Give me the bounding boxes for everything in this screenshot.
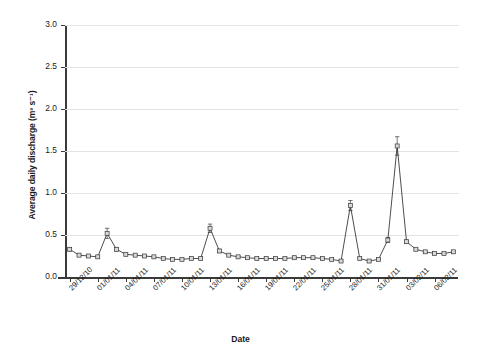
data-point-marker xyxy=(161,257,165,261)
x-axis-title: Date xyxy=(0,334,481,344)
data-point-marker xyxy=(367,259,371,263)
y-tick-label: 0.0 xyxy=(27,272,57,280)
data-point-marker xyxy=(255,257,259,261)
y-tick-label: 3.0 xyxy=(27,20,57,28)
y-tick-label: 2.0 xyxy=(27,104,57,112)
data-point-marker xyxy=(330,257,334,261)
data-point-marker xyxy=(171,257,175,261)
data-point-marker xyxy=(339,259,343,263)
data-point-marker xyxy=(68,247,72,251)
data-point-marker xyxy=(86,254,90,258)
data-point-marker xyxy=(423,250,427,254)
data-point-marker xyxy=(208,226,212,230)
data-point-marker xyxy=(264,257,268,261)
data-point-marker xyxy=(386,238,390,242)
data-point-marker xyxy=(236,255,240,259)
data-point-marker xyxy=(143,254,147,258)
data-point-marker xyxy=(302,256,306,260)
data-point-marker xyxy=(283,257,287,261)
data-point-marker xyxy=(189,257,193,261)
data-point-marker xyxy=(105,231,109,235)
data-point-marker xyxy=(442,251,446,255)
data-point-marker xyxy=(395,144,399,148)
data-point-marker xyxy=(320,257,324,261)
data-point-marker xyxy=(152,255,156,259)
data-point-marker xyxy=(405,240,409,244)
data-point-marker xyxy=(311,256,315,260)
y-tick-label: 1.0 xyxy=(27,188,57,196)
y-tick-label: 0.5 xyxy=(27,230,57,238)
data-point-marker xyxy=(433,251,437,255)
y-tick-mark xyxy=(61,277,65,278)
data-point-marker xyxy=(376,257,380,261)
data-point-marker xyxy=(227,253,231,257)
data-point-marker xyxy=(358,257,362,261)
data-point-marker xyxy=(199,257,203,261)
data-point-marker xyxy=(414,247,418,251)
data-point-marker xyxy=(217,249,221,253)
data-point-marker xyxy=(124,252,128,256)
chart-figure: Average daily discharge (m³ s⁻¹) Date 0.… xyxy=(0,0,481,355)
data-point-marker xyxy=(292,256,296,260)
data-point-marker xyxy=(348,204,352,208)
data-point-marker xyxy=(133,253,137,257)
data-point-marker xyxy=(451,250,455,254)
data-point-marker xyxy=(180,257,184,261)
discharge-series xyxy=(65,25,458,277)
data-point-marker xyxy=(96,255,100,259)
plot-area xyxy=(65,25,458,277)
series-line xyxy=(70,146,454,261)
data-point-marker xyxy=(274,257,278,261)
data-point-marker xyxy=(245,256,249,260)
y-tick-label: 2.5 xyxy=(27,62,57,70)
y-tick-label: 1.5 xyxy=(27,146,57,154)
data-point-marker xyxy=(114,247,118,251)
data-point-marker xyxy=(77,253,81,257)
x-axis-line xyxy=(58,277,458,279)
